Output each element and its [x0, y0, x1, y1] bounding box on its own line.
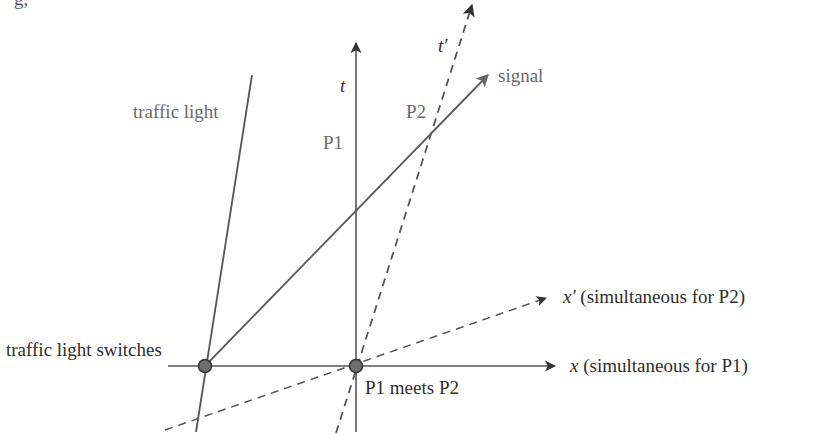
t-prime-axis-label: t′ — [438, 36, 447, 55]
event-p1-meets-p2 — [350, 360, 363, 373]
traffic-light-label: traffic light — [133, 102, 219, 121]
t-axis-label: t — [340, 76, 345, 95]
traffic-light-worldline — [196, 75, 252, 432]
x-caption: (simultaneous for P1) — [578, 355, 747, 376]
x-prime-caption: (simultaneous for P2) — [576, 286, 745, 307]
x-prime-axis-label: x′ (simultaneous for P2) — [563, 287, 745, 306]
x-axis-label: x (simultaneous for P1) — [570, 356, 748, 375]
signal-label: signal — [498, 66, 543, 85]
event-traffic-light-switches — [199, 360, 212, 373]
p1-label: P1 — [323, 133, 343, 152]
p1-meets-p2-label: P1 meets P2 — [365, 378, 459, 397]
traffic-light-switches-label: traffic light switches — [6, 340, 162, 359]
signal-worldline — [205, 75, 488, 366]
x-prime-symbol: x′ — [563, 286, 576, 307]
p2-label: P2 — [406, 102, 426, 121]
